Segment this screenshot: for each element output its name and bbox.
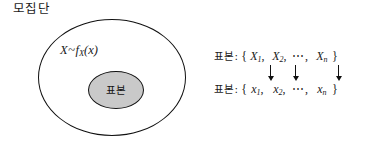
term-small-xn-subscript: n xyxy=(323,87,327,96)
down-arrow-icon-3 xyxy=(335,65,342,82)
term-x1-subscript: 1 xyxy=(258,55,262,64)
realization-open-brace: { xyxy=(241,83,247,95)
term-x1-separator: , xyxy=(262,49,265,63)
down-arrow-icon-2 xyxy=(292,65,299,82)
term-small-x1-separator: , xyxy=(261,82,264,96)
realization-close-brace: } xyxy=(332,83,338,95)
ellipsis-upper-separator: , xyxy=(305,49,309,63)
ellipsis-lower: ⋯, xyxy=(292,83,312,95)
sample-notation-block: 표본: {X1,X2,⋯,Xn} 표본: {x1,x2,⋯,xn} xyxy=(214,50,367,96)
term-small-x2-subscript: 2 xyxy=(279,87,283,96)
term-x2: X2, xyxy=(270,50,292,64)
ellipsis-upper: ⋯, xyxy=(292,50,312,62)
down-arrow-icon-1 xyxy=(267,65,274,82)
term-x2-symbol: X xyxy=(272,49,279,63)
term-x1-symbol: X xyxy=(250,49,257,63)
sample-ellipse-label: 표본 xyxy=(106,85,126,96)
term-small-x2: x2, xyxy=(270,83,292,97)
term-small-x1-subscript: 1 xyxy=(257,87,261,96)
ellipsis-lower-glyph: ⋯ xyxy=(292,82,305,96)
density-argument: (x) xyxy=(84,43,98,57)
set-close-brace: } xyxy=(332,50,338,62)
term-x1: X1, xyxy=(248,50,270,64)
distribution-formula: X~fX(x) xyxy=(60,44,98,57)
realization-set: {x1,x2,⋯,xn} xyxy=(241,83,338,97)
term-x2-separator: , xyxy=(284,49,287,63)
random-variable-row-label: 표본: xyxy=(214,51,238,62)
term-xn-subscript: n xyxy=(324,55,328,64)
term-xn-symbol: X xyxy=(316,49,323,63)
random-variable-row: 표본: {X1,X2,⋯,Xn} xyxy=(214,50,367,64)
term-xn: Xn xyxy=(312,50,332,64)
ellipsis-upper-glyph: ⋯ xyxy=(292,49,305,63)
random-variable-set: {X1,X2,⋯,Xn} xyxy=(241,50,338,64)
sample-ellipse: 표본 xyxy=(88,71,144,109)
random-variable-symbol: X xyxy=(60,43,68,57)
mapping-arrows xyxy=(214,64,367,83)
realization-row-label: 표본: xyxy=(214,84,238,95)
statistics-sampling-figure: 모집단 X~fX(x) 표본 표본: {X1,X2,⋯,Xn} xyxy=(0,0,367,148)
term-small-x2-separator: , xyxy=(283,82,286,96)
realization-row: 표본: {x1,x2,⋯,xn} xyxy=(214,83,367,97)
ellipsis-lower-separator: , xyxy=(305,82,309,96)
term-small-xn: xn xyxy=(312,83,332,97)
term-small-x1: x1, xyxy=(248,83,270,97)
tilde-operator: ~ xyxy=(68,43,75,57)
set-open-brace: { xyxy=(241,50,247,62)
population-label: 모집단 xyxy=(13,3,50,16)
term-x2-subscript: 2 xyxy=(280,55,284,64)
